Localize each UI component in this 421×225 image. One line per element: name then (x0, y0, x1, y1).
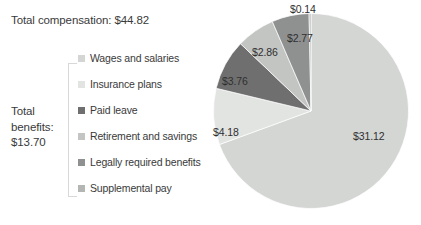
legend-item[interactable]: Insurance plans (78, 71, 208, 97)
total-benefits-line-3: $13.70 (11, 135, 67, 151)
legend-item[interactable]: Supplemental pay (78, 175, 208, 201)
legend-item-label: Insurance plans (90, 78, 162, 90)
legend-item-label: Supplemental pay (90, 182, 172, 194)
total-benefits-line-1: Total (11, 104, 67, 120)
benefits-bracket (68, 63, 77, 197)
legend-swatch-icon (78, 133, 85, 140)
legend-item-label: Legally required benefits (90, 156, 201, 168)
legend-item[interactable]: Wages and salaries (78, 45, 208, 71)
pie-slice-value-label: $2.77 (287, 32, 313, 44)
chart-page: Total compensation: $44.82 Total benefit… (0, 0, 421, 225)
legend-item[interactable]: Paid leave (78, 97, 208, 123)
legend-swatch-icon (78, 81, 85, 88)
chart-title: Total compensation: $44.82 (11, 14, 149, 26)
chart-legend: Wages and salariesInsurance plansPaid le… (78, 45, 208, 201)
pie-slice-value-label: $2.86 (252, 46, 278, 58)
legend-swatch-icon (78, 185, 85, 192)
pie-slice-value-label: $3.76 (222, 75, 248, 87)
total-benefits-annotation: Total benefits: $13.70 (11, 104, 67, 151)
legend-item-label: Retirement and savings (90, 130, 197, 142)
legend-swatch-icon (78, 159, 85, 166)
legend-item-label: Paid leave (90, 104, 138, 116)
pie-chart: $31.12$4.18$3.76$2.86$2.77$0.14 (213, 13, 409, 209)
pie-slice-value-label: $0.14 (290, 3, 316, 15)
total-benefits-line-2: benefits: (11, 120, 67, 136)
legend-item-label: Wages and salaries (90, 52, 179, 64)
legend-item[interactable]: Legally required benefits (78, 149, 208, 175)
legend-swatch-icon (78, 55, 85, 62)
pie-slice-value-label: $31.12 (353, 130, 385, 142)
legend-swatch-icon (78, 107, 85, 114)
pie-slice-value-label: $4.18 (213, 126, 239, 138)
legend-item[interactable]: Retirement and savings (78, 123, 208, 149)
